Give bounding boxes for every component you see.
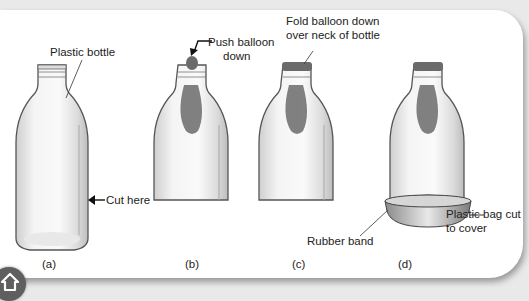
- label-fold-balloon: Fold balloon down: [286, 15, 379, 28]
- caption-b: (b): [185, 258, 199, 270]
- bottle-b-illustration: [154, 65, 230, 200]
- home-icon: [0, 272, 20, 292]
- diagram-panel: Plastic bottle Cut here (a) Push balloon…: [0, 10, 523, 278]
- caption-a: (a): [42, 258, 56, 270]
- label-rubber-band: Rubber band: [307, 235, 374, 248]
- label-down: down: [223, 50, 251, 63]
- label-cut-here: Cut here: [106, 194, 150, 207]
- caption-c: (c): [292, 258, 305, 270]
- caption-d: (d): [398, 258, 412, 270]
- arrow-left-icon: [88, 194, 106, 206]
- bottle-c-illustration: [259, 65, 335, 200]
- label-to-cover: to cover: [446, 222, 487, 235]
- label-push-balloon: Push balloon: [208, 36, 275, 49]
- label-over-neck: over neck of bottle: [286, 29, 380, 42]
- leader-line: [300, 48, 320, 68]
- label-plastic-bag: Plastic bag cut: [446, 208, 521, 221]
- leader-line: [60, 58, 90, 103]
